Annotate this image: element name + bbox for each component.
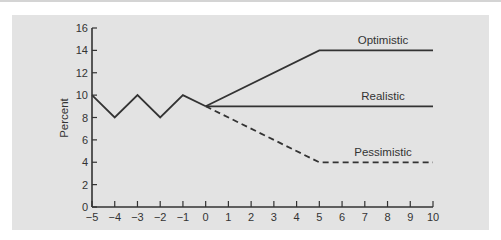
series-history — [92, 95, 206, 117]
y-tick-label: 14 — [76, 44, 88, 56]
x-tick-label: 3 — [271, 211, 277, 223]
y-tick-label: 6 — [82, 134, 88, 146]
y-tick-label: 2 — [82, 179, 88, 191]
x-tick-label: 7 — [362, 211, 368, 223]
x-tick-label: 0 — [203, 211, 209, 223]
y-axis-title: Percent — [58, 97, 70, 137]
x-tick-label: 1 — [225, 211, 231, 223]
y-tick-label: 4 — [82, 156, 88, 168]
x-tick-label: −4 — [108, 211, 121, 223]
y-tick-label: 16 — [76, 22, 88, 34]
x-tick-label: 2 — [248, 211, 254, 223]
y-tick-label: 12 — [76, 67, 88, 79]
label-optimistic: Optimistic — [358, 34, 409, 46]
x-tick-label: −3 — [131, 211, 144, 223]
series-labels: OptimisticRealisticPessimistic — [354, 34, 412, 158]
line-chart: 0246810121416−5−4−3−2−1012345678910 Opti… — [0, 0, 501, 240]
x-tick-label: 4 — [294, 211, 300, 223]
axes: 0246810121416−5−4−3−2−1012345678910 — [76, 22, 439, 223]
x-tick-label: 6 — [339, 211, 345, 223]
x-tick-label: 8 — [384, 211, 390, 223]
label-pessimistic: Pessimistic — [354, 146, 412, 158]
x-tick-label: 10 — [427, 211, 439, 223]
x-tick-label: −5 — [86, 211, 99, 223]
x-tick-label: −1 — [177, 211, 190, 223]
x-tick-label: −2 — [154, 211, 167, 223]
y-tick-label: 10 — [76, 89, 88, 101]
x-tick-label: 5 — [316, 211, 322, 223]
y-tick-label: 8 — [82, 112, 88, 124]
x-tick-label: 9 — [407, 211, 413, 223]
label-realistic: Realistic — [361, 90, 405, 102]
